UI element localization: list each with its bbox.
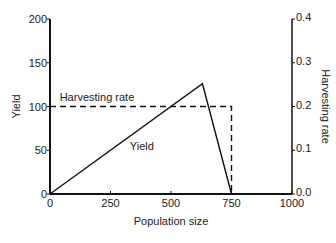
annotation: Yield: [130, 140, 154, 152]
y2-tick-label: 0.2: [296, 99, 311, 111]
x-tick-label: 500: [162, 197, 180, 209]
y2-tick-label: 0.4: [296, 11, 311, 23]
y-tick-label: 200: [29, 13, 47, 25]
y-tick-label: 100: [29, 101, 47, 113]
x-tick-label: 750: [222, 197, 240, 209]
x-axis-title: Population size: [134, 215, 209, 227]
x-tick-label: 0: [47, 197, 53, 209]
x-tick-label: 250: [101, 197, 119, 209]
y2-tick-label: 0.3: [296, 55, 311, 67]
annotation: Harvesting rate: [60, 91, 135, 103]
yield-harvesting-chart: 0501001502000.00.10.20.30.40250500750100…: [0, 0, 336, 243]
y-tick-label: 50: [35, 144, 47, 156]
x-tick-label: 1000: [280, 197, 304, 209]
y-tick-label: 150: [29, 57, 47, 69]
y-axis-title: Yield: [10, 94, 22, 118]
y2-axis-title: Harvesting rate: [320, 69, 332, 144]
y2-tick-label: 0.1: [296, 142, 311, 154]
